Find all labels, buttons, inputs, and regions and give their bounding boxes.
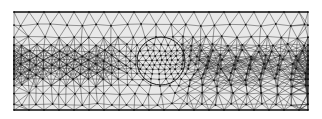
mesh-diagram <box>0 0 322 119</box>
